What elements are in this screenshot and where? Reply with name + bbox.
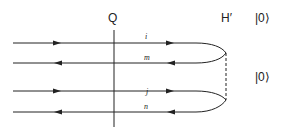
arrow-left-icon (54, 61, 62, 66)
propagator-line-m (13, 53, 226, 63)
arrow-left-icon (167, 110, 175, 115)
arrow-left-icon (54, 110, 62, 115)
ket-zero-bottom: |0⟩ (255, 70, 270, 84)
diagram-canvas: i m j n Q H′ |0⟩ |0⟩ (0, 0, 288, 131)
arrow-right-icon (53, 89, 61, 94)
ket-zero-top: |0⟩ (255, 11, 270, 25)
arrow-right-icon (166, 89, 174, 94)
propagator-line-i (13, 43, 226, 53)
line-label-m: m (144, 53, 150, 62)
q-label: Q (108, 11, 117, 25)
arrow-right-icon (166, 41, 174, 46)
line-label-n: n (144, 102, 148, 111)
arrow-right-icon (53, 41, 61, 46)
line-label-i: i (145, 32, 147, 41)
h-prime-label: H′ (221, 11, 233, 25)
propagator-line-n (13, 100, 226, 112)
arrow-left-icon (167, 61, 175, 66)
propagator-line-j (13, 91, 226, 100)
